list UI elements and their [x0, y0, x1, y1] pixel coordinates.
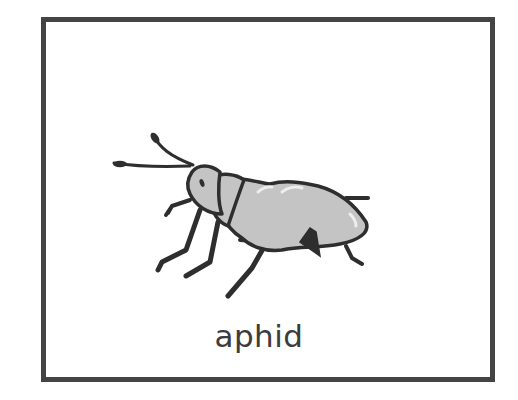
leg-front-left — [166, 200, 190, 215]
leg-mid-1 — [158, 210, 200, 270]
card-label: aphid — [0, 318, 518, 354]
aphid-abdomen — [222, 179, 367, 251]
aphid-head — [188, 166, 222, 214]
leg-rear — [346, 246, 362, 264]
